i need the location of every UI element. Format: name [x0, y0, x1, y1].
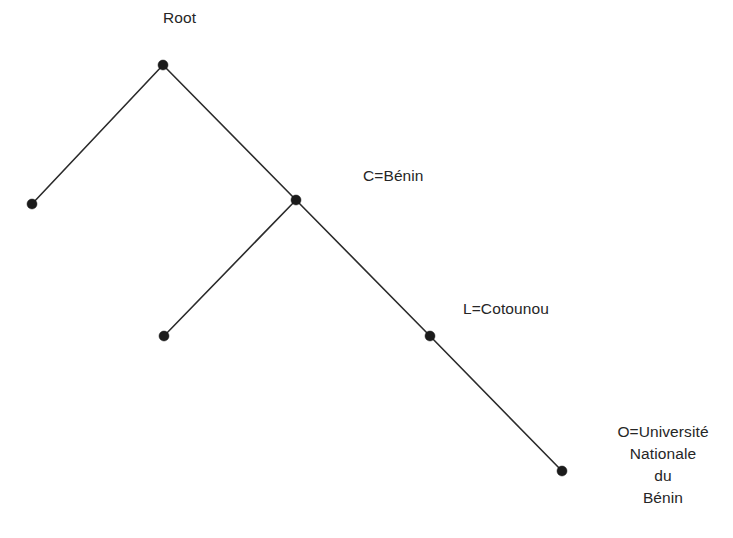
edge-root-to-benin [163, 65, 296, 200]
node-dot-leaf2[interactable] [159, 331, 169, 341]
node-label-cotounou: L=Cotounou [463, 298, 623, 320]
node-dot-benin[interactable] [291, 195, 301, 205]
node-label-universite: O=Université Nationale du Bénin [593, 421, 733, 509]
tree-diagram-canvas: Root C=Bénin L=Cotounou O=Université Nat… [0, 0, 733, 538]
node-dot-root[interactable] [158, 60, 168, 70]
node-label-benin: C=Bénin [363, 165, 503, 187]
node-dot-universite[interactable] [557, 466, 567, 476]
edge-root-to-leaf1 [32, 65, 163, 204]
edge-cotounou-to-universite [430, 336, 562, 471]
edge-benin-to-leaf2 [164, 200, 296, 336]
node-dot-leaf1[interactable] [27, 199, 37, 209]
edge-benin-to-cotounou [296, 200, 430, 336]
node-dot-cotounou[interactable] [425, 331, 435, 341]
edge-group [32, 65, 562, 471]
node-label-root: Root [163, 7, 253, 29]
